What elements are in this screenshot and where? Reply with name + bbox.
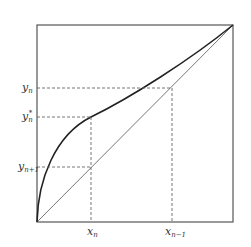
label-x-n: xn <box>87 225 98 239</box>
label-x-n-minus-1: xn−1 <box>165 225 186 239</box>
label-y-n-plus-1: yn+1 <box>17 160 39 174</box>
label-y-n: yn <box>21 81 33 95</box>
label-y-n-star: yn* <box>21 109 33 124</box>
diagonal-line <box>37 25 233 222</box>
diagram-canvas: yn yn* yn+1 xn xn−1 <box>0 0 251 247</box>
